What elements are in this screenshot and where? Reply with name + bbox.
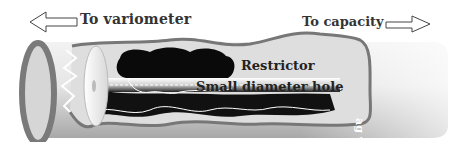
bag-wall-label: ag wall bbox=[353, 118, 366, 142]
restrictor-label: Restrictor bbox=[241, 58, 315, 73]
arrow-right-icon bbox=[386, 16, 430, 32]
tube-opening bbox=[22, 43, 54, 142]
tube-diagram bbox=[0, 0, 460, 142]
to-variometer-label: To variometer bbox=[80, 11, 191, 27]
restrictor-blob bbox=[117, 48, 235, 79]
small-hole-label: Small diameter hole bbox=[196, 79, 343, 94]
arrow-left-icon bbox=[30, 12, 77, 32]
to-capacity-label: To capacity bbox=[302, 14, 384, 29]
